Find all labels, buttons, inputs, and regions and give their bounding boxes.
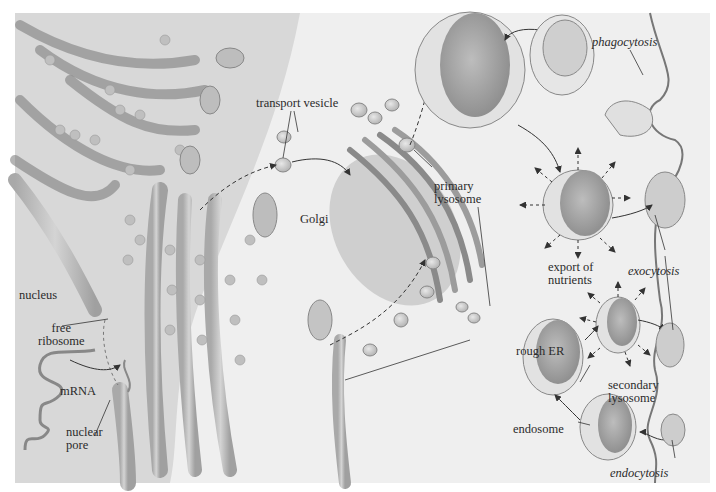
label-secondary-lysosome-line2: lysosome	[608, 392, 659, 405]
label-primary-lysosome-line2: lysosome	[434, 193, 481, 206]
cell-illustration	[0, 0, 716, 492]
label-endocytosis: endocytosis	[610, 467, 668, 480]
label-nucleus: nucleus	[19, 289, 57, 302]
label-rough-er: rough ER	[516, 345, 564, 358]
phagosome-lysosome	[415, 12, 525, 128]
plasma-membrane	[648, 13, 683, 483]
label-endosome: endosome	[513, 423, 564, 436]
digesting-lysosome	[543, 170, 613, 240]
label-transport-vesicle: transport vesicle	[256, 97, 338, 110]
label-free-ribosome: free ribosome	[38, 322, 85, 348]
label-secondary-lysosome: secondary lysosome	[608, 379, 659, 405]
label-export-of-nutrients: export of nutrients	[548, 261, 593, 287]
label-mrna: mRNA	[60, 385, 96, 398]
label-primary-lysosome: primary lysosome	[434, 180, 481, 206]
label-nuclear-pore-line2: pore	[66, 439, 103, 452]
label-nuclear-pore: nuclear pore	[66, 426, 103, 452]
secondary-lysosome-shape	[596, 297, 640, 353]
diagram-canvas: nucleus free ribosome mRNA nuclear pore …	[0, 0, 716, 492]
label-exocytosis: exocytosis	[628, 265, 679, 278]
phagosome	[530, 15, 594, 95]
label-golgi: Golgi	[300, 213, 328, 226]
label-free-ribosome-line2: ribosome	[38, 335, 85, 348]
label-phagocytosis: phagocytosis	[592, 36, 657, 49]
golgi-apparatus	[303, 130, 487, 329]
label-export-line2: nutrients	[548, 274, 593, 287]
